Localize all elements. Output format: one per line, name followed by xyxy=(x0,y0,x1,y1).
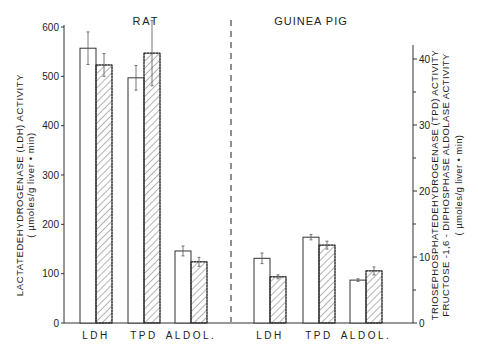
bar-rat-aldol-open xyxy=(175,251,191,323)
bar-rat-tpd-open xyxy=(128,78,144,323)
category-label: LDH xyxy=(256,330,284,341)
panel-title-rat: RAT xyxy=(132,15,159,27)
category-label: TPD xyxy=(305,330,333,341)
category-label: ALDOL. xyxy=(341,330,392,341)
bar-guinea-pig-aldol-hatched xyxy=(366,271,382,323)
bar-rat-ldh-hatched xyxy=(96,65,112,323)
bar-rat-aldol-hatched xyxy=(191,262,207,323)
left-tick-label: 400 xyxy=(42,120,59,131)
left-tick-label: 300 xyxy=(42,170,59,181)
left-axis-title: LACTATEDEHYDROGENASE (LDH) ACTIVITY xyxy=(14,74,25,296)
bar-guinea-pig-ldh-open xyxy=(254,258,270,323)
right-tick-label: 0 xyxy=(419,318,425,329)
right-axis-units: ( µmoles/g liver • min) xyxy=(453,135,464,236)
left-tick-label: 500 xyxy=(42,71,59,82)
left-y-axis: 0100200300400500600 xyxy=(42,22,64,329)
bar-guinea-pig-tpd-open xyxy=(303,237,319,323)
right-axis-title-aldolase: FRUCTOSE -1,6 - DIPHOSPHASE ALDOLASE ACT… xyxy=(440,53,451,317)
left-tick-label: 600 xyxy=(42,22,59,33)
bar-rat-ldh-open xyxy=(80,48,96,323)
category-label: TPD xyxy=(130,330,158,341)
left-tick-label: 100 xyxy=(42,268,59,279)
bar-rat-tpd-hatched xyxy=(144,53,160,323)
panel-title-guinea-pig: GUINEA PIG xyxy=(274,15,348,27)
bar-guinea-pig-aldol-open xyxy=(350,280,366,323)
category-labels: LDHTPDALDOL.LDHTPDALDOL. xyxy=(82,330,391,341)
left-axis-units: ( µmoles/g liver • min) xyxy=(25,132,36,237)
category-label: LDH xyxy=(82,330,110,341)
bar-guinea-pig-tpd-hatched xyxy=(319,245,335,323)
right-axis-title-tpd: TRIOSEPHOSPHATEDEHYDROGENASE (TPD) ACTIV… xyxy=(429,50,440,321)
right-y-axis: 010203040 xyxy=(413,45,431,329)
category-label: ALDOL. xyxy=(166,330,217,341)
enzyme-activity-chart: RAT GUINEA PIG 0100200300400500600 01020… xyxy=(0,0,478,351)
left-tick-label: 200 xyxy=(42,219,59,230)
left-tick-label: 0 xyxy=(53,318,59,329)
bar-guinea-pig-ldh-hatched xyxy=(270,277,286,323)
